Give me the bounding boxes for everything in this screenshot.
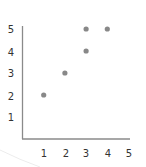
y-tick-labels: 5 4 3 2 1 [8,24,14,123]
data-point [84,26,89,31]
scatter-chart: 5 4 3 2 1 1 2 3 4 5 [0,0,146,167]
x-tick-4: 4 [105,148,111,159]
x-tick-1: 1 [41,148,47,159]
data-point [62,70,67,75]
x-tick-2: 2 [63,148,69,159]
y-tick-4: 4 [8,47,14,58]
y-tick-3: 3 [8,68,14,79]
y-tick-1: 1 [8,112,14,123]
y-tick-2: 2 [8,91,14,102]
x-tick-labels: 1 2 3 4 5 [41,148,132,159]
data-point [41,92,46,97]
data-point [105,26,110,31]
data-point [84,48,89,53]
x-tick-5: 5 [126,148,132,159]
y-tick-5: 5 [8,24,14,35]
data-points [41,26,110,97]
x-tick-3: 3 [83,148,89,159]
decorative-arc [0,150,40,167]
